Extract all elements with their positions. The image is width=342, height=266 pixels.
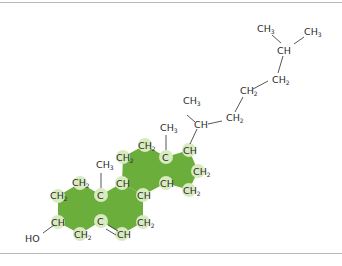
- svg-text:CH2: CH2: [74, 229, 92, 241]
- svg-text:CH2: CH2: [72, 177, 90, 189]
- svg-text:CH2: CH2: [226, 112, 244, 124]
- svg-text:CH2: CH2: [137, 217, 155, 229]
- svg-text:CH3: CH3: [304, 26, 322, 38]
- svg-text:C: C: [97, 190, 104, 201]
- svg-text:CH: CH: [160, 178, 174, 189]
- label-ho: HO: [25, 233, 40, 244]
- svg-text:CH2: CH2: [183, 185, 201, 197]
- svg-text:CH: CH: [116, 178, 130, 189]
- svg-text:CH2: CH2: [240, 85, 258, 97]
- svg-text:C: C: [162, 152, 169, 163]
- svg-text:CH2: CH2: [138, 140, 156, 152]
- svg-text:CH3: CH3: [257, 23, 275, 35]
- svg-text:CH: CH: [194, 119, 208, 130]
- svg-text:C: C: [97, 216, 104, 227]
- svg-text:CH3: CH3: [96, 159, 114, 171]
- svg-text:CH: CH: [277, 45, 291, 56]
- svg-text:CH2: CH2: [272, 74, 290, 86]
- svg-text:CH: CH: [117, 229, 131, 240]
- svg-text:CH3: CH3: [160, 122, 178, 134]
- svg-text:CH3: CH3: [183, 95, 201, 107]
- svg-text:CH: CH: [137, 190, 151, 201]
- svg-text:CH2: CH2: [193, 166, 211, 178]
- svg-text:CH: CH: [51, 217, 65, 228]
- svg-text:CH: CH: [183, 145, 197, 156]
- cholesterol-structure: HO CH2 CH2 C CH3 C CH2 CH CH CH CH2 CH C…: [0, 0, 342, 266]
